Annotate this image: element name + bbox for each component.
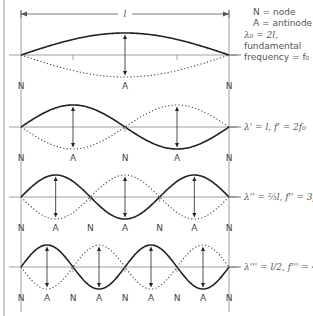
node-label: N — [18, 81, 25, 91]
arrow-down-icon — [192, 213, 196, 218]
harmonic-panel-2: NNNAAλ' = l, f' = 2f₀ — [9, 105, 306, 163]
equation-line: fundamental — [244, 41, 301, 51]
arrow-down-icon — [123, 213, 127, 218]
antinode-label: A — [200, 293, 207, 303]
arrow-down-icon — [71, 143, 75, 148]
antinode-label: A — [174, 153, 181, 163]
arrow-down-icon — [201, 283, 205, 288]
harmonic-panel-3: NNNNAAAλ'' = ⅔l, f'' = 3f₀ — [9, 175, 313, 233]
equation-line: λ₀ = 2l, — [243, 30, 278, 40]
arrow-down-icon — [149, 283, 153, 288]
equation-text: λ' = l, f' = 2f₀ — [243, 122, 306, 132]
antinode-label: A — [70, 153, 77, 163]
arrow-down-icon — [45, 283, 49, 288]
legend-node: N = node — [253, 7, 296, 17]
harmonic-panel-1: NNAλ₀ = 2l,fundamentalfrequency = f₀ — [9, 30, 310, 91]
antinode-label: A — [44, 293, 51, 303]
arrow-up-icon — [175, 107, 179, 112]
arrow-down-icon — [123, 71, 127, 76]
node-label: N — [18, 223, 25, 233]
node-label: N — [18, 153, 25, 163]
antinode-label: A — [96, 293, 103, 303]
node-label: N — [226, 153, 233, 163]
arrow-down-icon — [175, 143, 179, 148]
arrow-up-icon — [54, 177, 58, 182]
arrow-up-icon — [97, 247, 101, 252]
antinode-label: A — [53, 223, 60, 233]
arrow-up-icon — [201, 247, 205, 252]
arrow-up-icon — [149, 247, 153, 252]
harmonic-panels: NNAλ₀ = 2l,fundamentalfrequency = f₀NNNA… — [9, 30, 313, 303]
legend-antinode: A = antinode — [253, 18, 313, 28]
arrow-up-icon — [71, 107, 75, 112]
arrow-left-icon — [21, 12, 27, 17]
antinode-label: A — [148, 293, 155, 303]
arrow-up-icon — [45, 247, 49, 252]
arrow-up-icon — [123, 35, 127, 40]
arrow-right-icon — [223, 12, 229, 17]
node-label: N — [87, 223, 94, 233]
equation-line: frequency = f₀ — [244, 52, 310, 62]
equation-text: λ''' = l/2, f''' = 4f₀ — [243, 262, 313, 272]
node-label: N — [156, 223, 163, 233]
node-label: N — [18, 293, 25, 303]
antinode-label: A — [191, 223, 198, 233]
node-label: N — [226, 81, 233, 91]
antinode-label: A — [122, 81, 129, 91]
node-label: N — [122, 153, 129, 163]
node-label: N — [226, 293, 233, 303]
node-label: N — [174, 293, 181, 303]
arrow-up-icon — [192, 177, 196, 182]
arrow-down-icon — [97, 283, 101, 288]
equation-text: λ'' = ⅔l, f'' = 3f₀ — [243, 192, 313, 202]
node-label: N — [122, 293, 129, 303]
arrow-down-icon — [54, 213, 58, 218]
antinode-label: A — [122, 223, 129, 233]
node-label: N — [70, 293, 77, 303]
length-label: l — [124, 9, 127, 19]
harmonic-panel-4: NNNNNAAAAλ''' = l/2, f''' = 4f₀ — [9, 245, 313, 303]
arrow-up-icon — [123, 177, 127, 182]
node-label: N — [226, 223, 233, 233]
standing-waves-diagram: lN = nodeA = antinode NNAλ₀ = 2l,fundame… — [0, 0, 313, 316]
